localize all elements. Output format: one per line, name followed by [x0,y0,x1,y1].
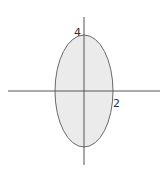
label-y-intercept: 4 [74,26,81,39]
label-x-intercept: 2 [113,97,120,110]
ellipse-diagram: 4 2 [0,0,167,169]
